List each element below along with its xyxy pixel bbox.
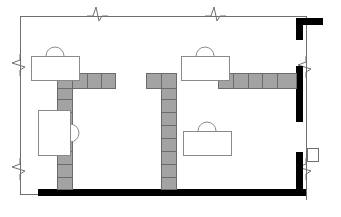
desk-left-side-chair xyxy=(70,124,79,142)
break-left-upper xyxy=(12,54,25,76)
masonry-wall-center-right-run xyxy=(218,73,296,88)
masonry-wall-center-left-stub xyxy=(146,73,176,88)
wall-right-lower-pier xyxy=(296,152,303,192)
desk-lower-center xyxy=(183,122,231,155)
desk-upper-left-desk xyxy=(31,56,79,80)
desk-upper-left-chair xyxy=(46,47,64,56)
desk-left-side-desk xyxy=(38,110,70,155)
floor-plan-svg xyxy=(0,0,341,217)
floor-plan-drawing xyxy=(0,0,341,217)
desk-upper-center xyxy=(181,47,229,80)
desk-upper-left xyxy=(31,47,79,80)
masonry-wall-center-vertical-body xyxy=(161,73,176,189)
break-left-lower xyxy=(12,158,25,180)
desk-upper-center-chair xyxy=(196,47,214,56)
wall-top-right-return xyxy=(296,18,323,25)
desk-lower-center-desk xyxy=(183,131,231,155)
desk-lower-center-chair xyxy=(198,122,216,131)
break-top-left xyxy=(87,7,108,21)
desk-upper-center-desk xyxy=(181,56,229,80)
wall-right-middle-pier xyxy=(296,66,303,122)
masonry-wall-center-right-run-body xyxy=(218,73,296,88)
column-right-small xyxy=(307,148,318,161)
desk-left-side xyxy=(38,110,79,155)
masonry-wall-center-vertical xyxy=(161,73,176,189)
break-top-right xyxy=(205,7,226,21)
wall-bottom-slab xyxy=(38,189,306,196)
